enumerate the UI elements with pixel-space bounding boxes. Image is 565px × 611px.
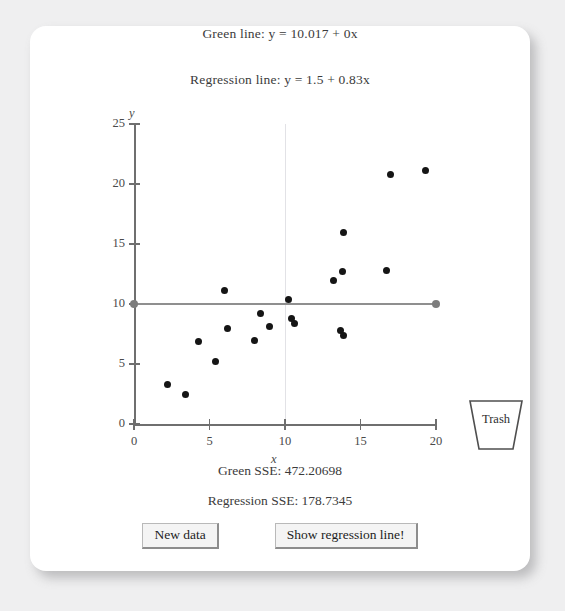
green-line[interactable] xyxy=(134,303,436,305)
x-tick-label: 0 xyxy=(119,434,149,449)
data-point[interactable] xyxy=(266,323,273,330)
y-tick-label: 5 xyxy=(97,356,125,371)
x-tick xyxy=(284,419,285,430)
data-point[interactable] xyxy=(221,287,228,294)
x-tick xyxy=(133,419,134,430)
y-axis xyxy=(134,124,136,426)
x-tick-label: 5 xyxy=(195,434,225,449)
applet-card: Green line: y = 10.017 + 0x Regression l… xyxy=(30,26,530,571)
green-line-equation: Green line: y = 10.017 + 0x xyxy=(30,26,530,42)
y-tick-label: 0 xyxy=(97,416,125,431)
y-tick xyxy=(129,123,140,124)
x-tick xyxy=(435,419,436,430)
data-point[interactable] xyxy=(387,171,394,178)
vertical-gridline xyxy=(285,124,286,424)
x-tick-label: 15 xyxy=(346,434,376,449)
data-point[interactable] xyxy=(291,320,298,327)
x-tick xyxy=(360,419,361,430)
scatter-plot[interactable]: y x 0510152025 05101520 Trash xyxy=(67,102,487,462)
y-tick xyxy=(129,363,140,364)
data-point[interactable] xyxy=(340,229,347,236)
data-point[interactable] xyxy=(257,310,264,317)
data-point[interactable] xyxy=(251,337,258,344)
data-point[interactable] xyxy=(285,296,292,303)
data-point[interactable] xyxy=(340,332,347,339)
y-tick-label: 10 xyxy=(97,296,125,311)
y-tick xyxy=(129,243,140,244)
trash-target[interactable]: Trash xyxy=(467,398,525,452)
green-sse-readout: Green SSE: 472.20698 xyxy=(30,463,530,479)
data-point[interactable] xyxy=(224,325,231,332)
new-data-button[interactable]: New data xyxy=(142,523,218,549)
green-line-right-handle[interactable] xyxy=(432,300,440,308)
show-regression-line-button[interactable]: Show regression line! xyxy=(275,523,418,549)
x-tick-label: 20 xyxy=(421,434,451,449)
regression-line-equation: Regression line: y = 1.5 + 0.83x xyxy=(30,72,530,88)
y-tick-label: 15 xyxy=(97,236,125,251)
data-point[interactable] xyxy=(212,358,219,365)
regression-sse-readout: Regression SSE: 178.7345 xyxy=(30,493,530,509)
y-tick-label: 25 xyxy=(97,116,125,131)
trash-label: Trash xyxy=(467,412,525,427)
data-point[interactable] xyxy=(339,268,346,275)
y-tick xyxy=(129,183,140,184)
x-tick xyxy=(209,419,210,430)
x-tick-label: 10 xyxy=(270,434,300,449)
data-point[interactable] xyxy=(182,391,189,398)
y-tick-label: 20 xyxy=(97,176,125,191)
button-bar: New data Show regression line! xyxy=(30,523,530,549)
data-point[interactable] xyxy=(164,381,171,388)
data-point[interactable] xyxy=(195,338,202,345)
data-point[interactable] xyxy=(330,277,337,284)
green-line-left-handle[interactable] xyxy=(130,300,138,308)
data-point[interactable] xyxy=(422,167,429,174)
y-axis-label: y xyxy=(129,106,135,121)
data-point[interactable] xyxy=(383,267,390,274)
